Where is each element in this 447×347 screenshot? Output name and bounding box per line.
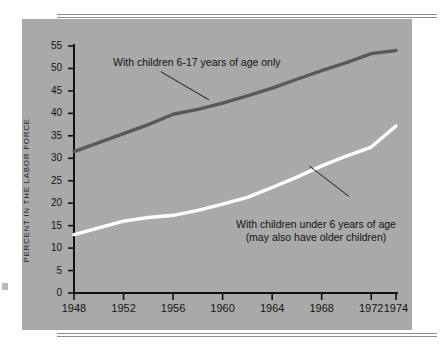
y-tick-label: 20 xyxy=(36,198,62,208)
x-tick-label: 1948 xyxy=(54,302,94,314)
annotation-leader-lines xyxy=(161,72,349,197)
y-tick-label: 45 xyxy=(36,86,62,96)
y-tick-label: 50 xyxy=(36,63,62,73)
annotation-leader-line xyxy=(309,166,349,197)
annotation-leader-line xyxy=(161,72,209,100)
bottom-rule-line-2 xyxy=(57,336,437,337)
x-tick-label: 1960 xyxy=(203,302,243,314)
x-tick-label: 1968 xyxy=(302,302,342,314)
y-tick-label: 0 xyxy=(36,288,62,298)
x-tick-label: 1956 xyxy=(153,302,193,314)
x-tick-label: 1974 xyxy=(376,302,416,314)
annotation-lower-line-2: (may also have older children) xyxy=(236,231,396,244)
axes-group xyxy=(68,44,398,300)
y-axis-title: PERCENT IN THE LABOR FORCE xyxy=(22,143,31,263)
y-tick-label: 55 xyxy=(36,41,62,51)
chart-plot-area xyxy=(0,0,447,347)
y-tick-label: 15 xyxy=(36,221,62,231)
x-tick-label: 1952 xyxy=(104,302,144,314)
series-group xyxy=(74,50,396,234)
y-tick-label: 30 xyxy=(36,153,62,163)
x-tick-label: 1964 xyxy=(252,302,292,314)
figure: 0510152025303540455055 19481952195619601… xyxy=(0,0,447,347)
annotation-upper-line-1: With children 6-17 years of age only xyxy=(113,56,281,69)
y-tick-label: 35 xyxy=(36,131,62,141)
bottom-rule-line-1 xyxy=(57,333,437,334)
annotation-lower-series: With children under 6 years of age (may … xyxy=(236,218,396,244)
y-tick-label: 40 xyxy=(36,108,62,118)
annotation-lower-line-1: With children under 6 years of age xyxy=(236,218,396,231)
y-tick-label: 25 xyxy=(36,176,62,186)
y-tick-label: 5 xyxy=(36,266,62,276)
y-tick-label: 10 xyxy=(36,243,62,253)
annotation-upper-series: With children 6-17 years of age only xyxy=(113,56,281,69)
